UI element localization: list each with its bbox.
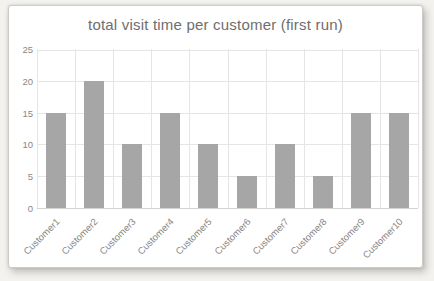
gridline-vertical <box>418 49 419 208</box>
gridline-vertical <box>151 49 152 208</box>
y-tick-label: 20 <box>11 76 33 87</box>
gridline-vertical <box>228 49 229 208</box>
y-tick-label: 15 <box>11 108 33 119</box>
bar-customer1 <box>46 113 66 208</box>
bar-customer3 <box>122 144 142 208</box>
gridline-vertical <box>266 49 267 208</box>
bar-customer9 <box>351 113 371 208</box>
gridline-vertical <box>75 49 76 208</box>
x-axis-line <box>37 208 418 209</box>
bar-customer8 <box>313 176 333 208</box>
plot-area <box>37 49 418 208</box>
y-tick-label: 0 <box>11 203 33 214</box>
screenshot-root: { "chart_data": { "type": "bar", "title"… <box>0 0 434 281</box>
bar-customer4 <box>160 113 180 208</box>
gridline-vertical <box>189 49 190 208</box>
y-tick-label: 10 <box>11 139 33 150</box>
bar-customer5 <box>198 144 218 208</box>
y-tick-label: 5 <box>11 171 33 182</box>
y-tick-label: 25 <box>11 44 33 55</box>
gridline-vertical <box>380 49 381 208</box>
chart-card: total visit time per customer (first run… <box>8 5 423 268</box>
gridline-vertical <box>342 49 343 208</box>
gridline-vertical <box>113 49 114 208</box>
bar-customer2 <box>84 81 104 208</box>
gridline-vertical <box>37 49 38 208</box>
chart-title: total visit time per customer (first run… <box>9 16 422 33</box>
bar-customer10 <box>389 113 409 208</box>
bar-customer6 <box>237 176 257 208</box>
bar-customer7 <box>275 144 295 208</box>
gridline-vertical <box>304 49 305 208</box>
